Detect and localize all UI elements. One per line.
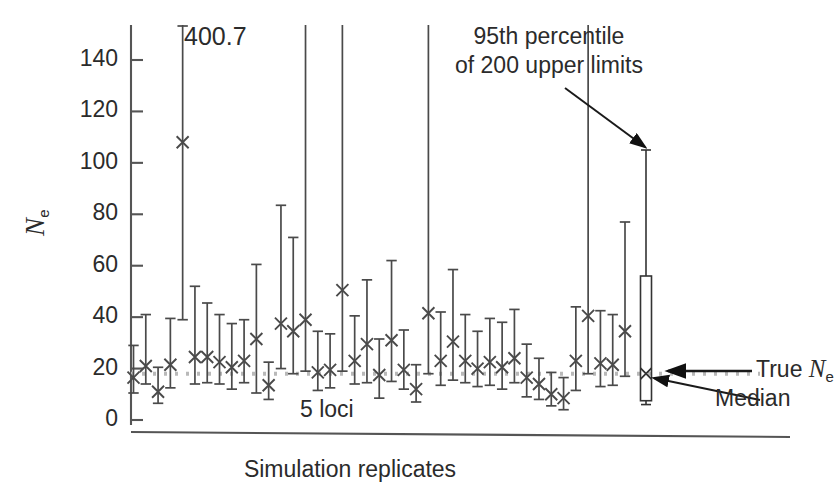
axes	[131, 25, 790, 437]
chart-canvas	[0, 0, 835, 501]
errorbar-point	[201, 303, 213, 383]
y-axis-tick-label: 20	[48, 354, 118, 381]
errorbar-point	[558, 378, 570, 410]
errorbar-point	[287, 237, 299, 373]
errorbar-point	[164, 318, 176, 387]
percentile-arrow	[565, 88, 645, 147]
errorbar-point	[398, 330, 410, 389]
percentile-annotation: 95th percentile of 200 upper limits	[455, 22, 643, 80]
y-axis-label-symbol: N	[20, 218, 50, 236]
errorbar-point	[545, 372, 557, 405]
errorbar-point	[570, 307, 582, 391]
errorbar-point	[422, 25, 434, 374]
true-ne-subscript: e	[826, 368, 834, 385]
errorbar-point	[533, 358, 545, 399]
y-axis-tick-label: 40	[48, 302, 118, 329]
summary-boxplot	[641, 150, 652, 405]
errorbar-point	[496, 322, 508, 389]
true-ne-prefix: True	[756, 356, 809, 382]
true-ne-annotation: True Ne	[756, 355, 834, 385]
errorbar-point	[472, 331, 484, 386]
y-axis-tick-label: 120	[48, 96, 118, 123]
errorbar-point	[410, 365, 422, 402]
y-axis-tick-label: 80	[48, 199, 118, 226]
errorbar-point	[214, 315, 226, 384]
boxplot-box	[641, 276, 652, 401]
errorbar-point	[521, 344, 533, 397]
figure-panel: Ne 020406080100120140 Simulation replica…	[0, 0, 835, 501]
y-axis-tick-label: 0	[48, 405, 118, 432]
errorbar-point	[275, 205, 287, 368]
errorbar-point	[226, 324, 238, 390]
errorbar-point	[238, 320, 250, 383]
x-axis-label: Simulation replicates	[0, 456, 700, 483]
percentile-annotation-line1: 95th percentile	[455, 22, 643, 51]
errorbar-point	[300, 25, 312, 371]
y-axis-tick-label: 100	[48, 148, 118, 175]
errorbar-point	[312, 331, 324, 390]
y-axis-tick-label: 140	[48, 45, 118, 72]
x-axis-line	[131, 432, 790, 437]
percentile-annotation-line2: of 200 upper limits	[455, 51, 643, 80]
errorbar-point	[386, 261, 398, 382]
errorbar-point	[447, 270, 459, 381]
errorbar-point	[361, 280, 373, 383]
errorbar-point	[140, 315, 152, 384]
errorbar-point	[619, 222, 631, 376]
errorbar-series	[128, 25, 632, 410]
errorbar-point	[324, 334, 336, 388]
errorbar-point	[373, 339, 385, 398]
errorbar-point	[177, 25, 189, 320]
errorbar-point	[336, 25, 348, 371]
errorbar-point	[435, 312, 447, 385]
errorbar-point	[189, 286, 201, 384]
true-ne-symbol: N	[809, 355, 826, 382]
loci-annotation: 5 loci	[300, 396, 354, 423]
errorbar-point	[263, 362, 275, 399]
y-axis-tick-label: 60	[48, 251, 118, 278]
median-annotation: Median	[715, 385, 790, 412]
errorbar-point	[349, 316, 361, 384]
peak-value-annotation: 400.7	[184, 22, 247, 51]
annotation-leaders	[565, 88, 760, 400]
